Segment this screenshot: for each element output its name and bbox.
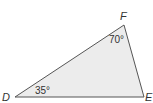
- triangle-diagram: D E F 35° 70°: [0, 0, 153, 103]
- vertex-label-d: D: [2, 91, 10, 103]
- vertex-label-e: E: [145, 91, 153, 103]
- angle-label-f: 70°: [109, 34, 124, 45]
- angle-label-d: 35°: [35, 85, 50, 96]
- vertex-label-f: F: [120, 10, 128, 22]
